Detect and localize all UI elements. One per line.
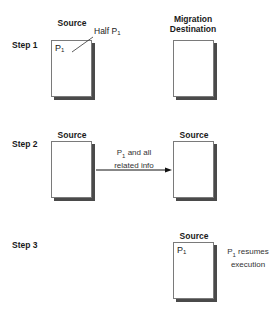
arrow-layer [0, 0, 280, 318]
resumes-line2: execution [220, 260, 276, 270]
resumes-line1: P1 resumes [220, 247, 276, 260]
step-3-label: Step 3 [12, 240, 38, 250]
resumes-rest: resumes [236, 247, 269, 256]
resumes-annotation: P1 resumes execution [220, 247, 276, 270]
step-3-source-header: Source [173, 231, 215, 241]
step-3-process-label: P1 [177, 245, 186, 255]
process-subscript: 1 [183, 249, 186, 255]
half-p1-leader-line [72, 37, 93, 52]
transfer-arrow-head-icon [165, 168, 172, 173]
step-3-source-box: P1 [173, 242, 214, 299]
